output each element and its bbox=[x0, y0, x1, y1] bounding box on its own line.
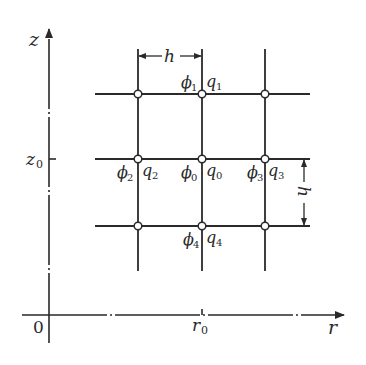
origin-label: 0 bbox=[33, 317, 44, 337]
svg-text:1: 1 bbox=[191, 82, 197, 93]
svg-text:3: 3 bbox=[278, 170, 284, 181]
node bbox=[261, 222, 269, 230]
z-axis bbox=[49, 29, 56, 343]
svg-text:0: 0 bbox=[201, 324, 208, 337]
node bbox=[134, 90, 142, 98]
node-1 bbox=[198, 90, 206, 98]
r-axis-label: r bbox=[328, 316, 339, 338]
spacing-label-h: h bbox=[164, 46, 175, 66]
spacing-label-h-vertical: h bbox=[294, 186, 314, 197]
node-2 bbox=[134, 155, 142, 163]
z0-tick-label: z 0 bbox=[25, 149, 43, 171]
svg-text:r: r bbox=[192, 315, 201, 335]
svg-text:q: q bbox=[206, 228, 216, 247]
diagram-canvas: h h z r 0 z 0 r 0 ϕ 1 q 1 ϕ 2 q 2 ϕ 0 q … bbox=[0, 0, 366, 365]
node bbox=[134, 222, 142, 230]
svg-text:q: q bbox=[206, 72, 216, 91]
node-4 bbox=[198, 222, 206, 230]
r0-tick-label: r 0 bbox=[192, 315, 208, 337]
svg-text:0: 0 bbox=[191, 172, 197, 183]
node bbox=[261, 90, 269, 98]
svg-text:4: 4 bbox=[193, 239, 199, 250]
svg-text:2: 2 bbox=[152, 170, 158, 181]
svg-text:0: 0 bbox=[216, 170, 222, 181]
z-axis-label: z bbox=[28, 28, 40, 50]
svg-text:0: 0 bbox=[36, 158, 43, 171]
svg-text:2: 2 bbox=[127, 172, 133, 183]
svg-text:1: 1 bbox=[216, 81, 222, 92]
svg-text:4: 4 bbox=[216, 237, 222, 248]
svg-text:q: q bbox=[206, 161, 216, 180]
svg-text:q: q bbox=[268, 161, 278, 180]
r-axis bbox=[22, 309, 344, 315]
node-0 bbox=[198, 155, 206, 163]
svg-text:3: 3 bbox=[257, 172, 263, 183]
fd-grid-diagram: h h z r 0 z 0 r 0 ϕ 1 q 1 ϕ 2 q 2 ϕ 0 q … bbox=[0, 0, 366, 365]
svg-text:z: z bbox=[25, 149, 36, 169]
svg-text:q: q bbox=[142, 161, 152, 180]
